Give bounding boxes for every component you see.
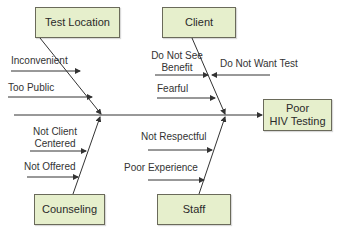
effect-box: Poor HIV Testing bbox=[263, 99, 332, 131]
category-box-staff: Staff bbox=[157, 194, 231, 225]
cause-line: Centered bbox=[24, 138, 86, 150]
effect-label-line2: HIV Testing bbox=[269, 115, 325, 128]
cause-fearful: Fearful bbox=[157, 83, 188, 95]
category-box-counseling: Counseling bbox=[34, 194, 105, 225]
cause-not-offered: Not Offered bbox=[24, 161, 76, 173]
cause-not-respectful: Not Respectful bbox=[141, 131, 207, 143]
category-box-client: Client bbox=[162, 7, 236, 38]
cause-do-not-see-benefit: Do Not See Benefit bbox=[142, 50, 212, 74]
category-label: Counseling bbox=[42, 203, 97, 216]
category-label: Staff bbox=[183, 203, 205, 216]
cause-line: Benefit bbox=[142, 62, 212, 74]
category-label: Client bbox=[185, 16, 213, 29]
cause-do-not-want-test: Do Not Want Test bbox=[220, 58, 298, 70]
cause-not-client-centered: Not Client Centered bbox=[24, 126, 86, 150]
cause-inconvenient: Inconvenient bbox=[11, 55, 68, 67]
cause-poor-experience: Poor Experience bbox=[124, 162, 198, 174]
effect-label-line1: Poor bbox=[286, 102, 309, 115]
category-label: Test Location bbox=[45, 16, 110, 29]
cause-line: Not Client bbox=[24, 126, 86, 138]
category-box-test-location: Test Location bbox=[35, 7, 120, 38]
cause-too-public: Too Public bbox=[8, 82, 54, 94]
cause-line: Do Not See bbox=[142, 50, 212, 62]
